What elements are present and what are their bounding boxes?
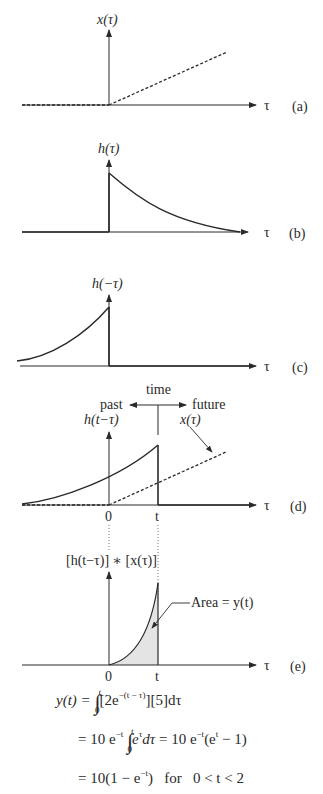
tick-t: t <box>155 509 159 524</box>
eq2-exp1: −t <box>116 729 124 739</box>
panel-b-tag: (b) <box>289 226 306 242</box>
panel-d-tag: (d) <box>290 499 307 515</box>
eq3-exp: −t <box>140 768 148 778</box>
eq3-close: ) <box>148 770 153 786</box>
h-rev-curve <box>17 307 109 361</box>
h-decay-curve <box>109 173 240 232</box>
panel-e-tau: τ <box>264 658 270 673</box>
panel-e-tag: (e) <box>290 659 306 675</box>
panel-a-tag: (a) <box>292 99 308 115</box>
eq3-text: = 10(1 − e <box>78 770 140 786</box>
panel-c-ylabel: h(−τ) <box>92 276 123 292</box>
x-ramp-dashed <box>109 52 227 105</box>
panel-b-tau: τ <box>264 225 270 240</box>
panel-c: h(−τ) τ (c) <box>17 276 308 376</box>
panel-e-ylabel: [h(t−τ)] ∗ [x(τ)] <box>66 553 157 569</box>
eq1-rest: ][5]dτ <box>145 692 181 708</box>
equation-line-1: y(t) = ∫t0[2e−(t − τ)][5]dτ <box>56 690 181 716</box>
tick-t: t <box>155 669 159 684</box>
panel-c-tau: τ <box>264 359 270 374</box>
eq1-lhs: y(t) = <box>56 692 91 708</box>
equation-line-2: = 10 e−t ∫t0eτdτ = 10 e−t(et − 1) <box>78 729 247 755</box>
panel-d: time past future h(t−τ) x(τ) 0 t τ (d) <box>22 382 307 600</box>
panel-c-tag: (c) <box>292 360 308 376</box>
panel-d-xlabel: x(τ) <box>179 412 201 428</box>
eq3-cond: for <box>164 770 182 786</box>
eq1-upper: t <box>98 687 101 697</box>
panel-a-ylabel: x(τ) <box>96 12 118 28</box>
eq2-tail: − 1) <box>218 731 246 747</box>
x-ramp-dashed <box>109 452 226 505</box>
eq2-prefix: = 10 e <box>78 731 116 747</box>
future-label: future <box>192 397 225 412</box>
panel-a-tau: τ <box>264 98 270 113</box>
eq1-integrand: [2e <box>99 692 118 708</box>
past-label: past <box>100 397 123 412</box>
h-shift-curve <box>22 445 158 504</box>
panel-e: Area = y(t) [h(t−τ)] ∗ [x(τ)] 0 t τ (e) <box>22 553 306 684</box>
panel-b-ylabel: h(τ) <box>98 141 120 157</box>
area-annotation: Area = y(t) <box>191 595 254 611</box>
panel-b: h(τ) τ (b) <box>22 141 306 242</box>
convolution-figure: x(τ) τ (a) h(τ) τ (b) h(−τ) τ (c) time p… <box>0 0 323 700</box>
tick-0: 0 <box>105 509 112 524</box>
tick-0: 0 <box>105 669 112 684</box>
eq2-exp3: −t <box>197 729 205 739</box>
time-label: time <box>146 382 171 397</box>
panel-d-ylabel: h(t−τ) <box>84 412 119 428</box>
eq1-lower: 0 <box>95 705 100 715</box>
x-pointer-arrow <box>190 427 212 452</box>
equation-line-3: = 10(1 − e−t) for 0 < t < 2 <box>78 768 244 787</box>
eq2-upper: t <box>131 726 134 736</box>
eq2-d: dτ <box>142 731 155 747</box>
eq2-lower: 0 <box>128 744 133 754</box>
panel-d-tau: τ <box>264 498 270 513</box>
eq1-exp: −(t − τ) <box>119 690 146 700</box>
area-shade <box>109 583 158 665</box>
eq3-range: 0 < t < 2 <box>193 770 244 786</box>
eq2-mid: = 10 e <box>155 731 196 747</box>
eq2-paren: (e <box>204 731 216 747</box>
panel-a: x(τ) τ (a) <box>22 12 308 115</box>
